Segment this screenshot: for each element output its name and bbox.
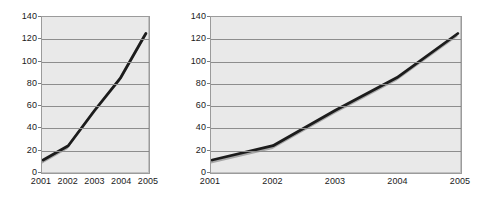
y-tick-mark: [38, 150, 41, 151]
y-tick-mark: [207, 83, 210, 84]
x-tick-label: 2003: [325, 176, 345, 186]
y-tick-mark: [38, 172, 41, 173]
line-chart-left: 020406080100120140 20012002200320042005: [0, 0, 168, 207]
plot-area-right: [210, 16, 462, 174]
y-tick-label: 40: [27, 122, 37, 132]
y-tick-label: 80: [27, 78, 37, 88]
x-tick-label: 2001: [31, 176, 51, 186]
x-tick-label: 2001: [200, 176, 220, 186]
x-tick-label: 2004: [111, 176, 131, 186]
y-tick-label: 120: [191, 33, 206, 43]
gridline: [42, 106, 149, 107]
y-tick-mark: [207, 105, 210, 106]
y-tick-mark: [207, 38, 210, 39]
y-axis-right: 020406080100120140: [183, 16, 206, 174]
y-tick-label: 60: [196, 100, 206, 110]
gridline: [42, 151, 149, 152]
x-tick-label: 2002: [262, 176, 282, 186]
gridline: [42, 128, 149, 129]
gridline: [211, 84, 461, 85]
line-chart-right: 020406080100120140 20012002200320042005: [183, 0, 497, 207]
gridline: [211, 128, 461, 129]
y-tick-mark: [38, 16, 41, 17]
y-tick-label: 100: [22, 56, 37, 66]
y-tick-mark: [207, 61, 210, 62]
x-tick-label: 2005: [450, 176, 470, 186]
gridline: [211, 106, 461, 107]
y-tick-label: 60: [27, 100, 37, 110]
y-tick-label: 100: [191, 56, 206, 66]
y-tick-mark: [207, 172, 210, 173]
gridline: [42, 84, 149, 85]
x-tick-label: 2002: [58, 176, 78, 186]
plot-area-left: [41, 16, 150, 174]
y-tick-label: 20: [27, 145, 37, 155]
x-tick-label: 2005: [138, 176, 158, 186]
figure-canvas: 020406080100120140 20012002200320042005 …: [0, 0, 497, 207]
y-tick-mark: [38, 61, 41, 62]
gridline: [211, 62, 461, 63]
series-line-shadow: [211, 36, 456, 163]
y-tick-mark: [38, 127, 41, 128]
series-line-left: [42, 17, 149, 173]
gridline: [211, 39, 461, 40]
y-tick-label: 140: [191, 11, 206, 21]
series-line-shadow: [42, 36, 144, 163]
y-tick-label: 120: [22, 33, 37, 43]
series-line-right: [211, 17, 461, 173]
gridline: [42, 62, 149, 63]
gridline: [211, 151, 461, 152]
y-tick-mark: [38, 38, 41, 39]
y-axis-left: 020406080100120140: [0, 16, 37, 174]
y-tick-label: 140: [22, 11, 37, 21]
y-tick-mark: [38, 105, 41, 106]
y-tick-mark: [207, 16, 210, 17]
x-tick-label: 2003: [84, 176, 104, 186]
series-line-path: [43, 33, 146, 160]
gridline: [42, 39, 149, 40]
y-tick-mark: [207, 150, 210, 151]
y-tick-label: 80: [196, 78, 206, 88]
y-tick-label: 20: [196, 145, 206, 155]
x-tick-label: 2004: [387, 176, 407, 186]
y-tick-label: 40: [196, 122, 206, 132]
y-tick-mark: [38, 83, 41, 84]
series-line-path: [212, 33, 458, 160]
y-tick-mark: [207, 127, 210, 128]
